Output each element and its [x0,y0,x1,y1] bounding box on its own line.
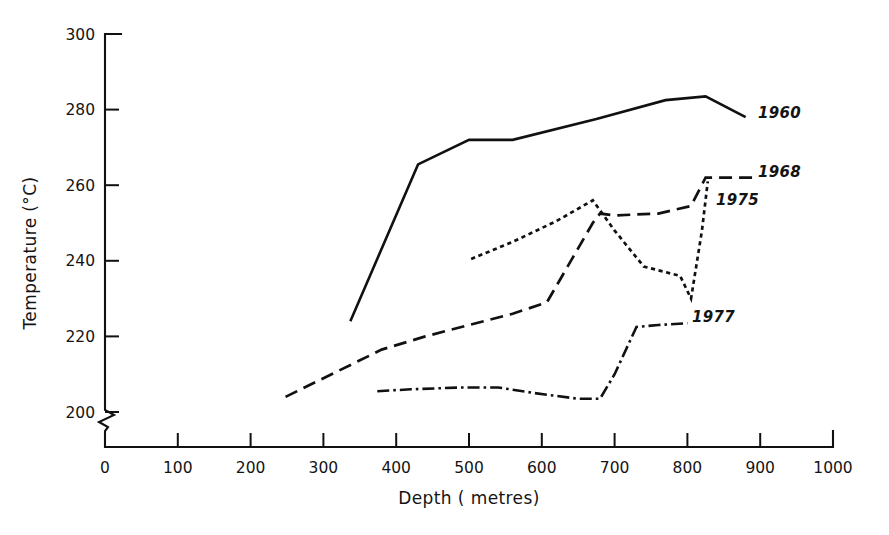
x-tick-label: 0 [100,459,110,477]
y-axis-line [105,34,121,404]
x-tick-label: 500 [454,459,484,477]
y-axis-title: Temperature (°C) [20,176,40,330]
y-tick-label: 280 [65,101,95,119]
x-tick-label: 900 [745,459,775,477]
y-tick-label: 200 [65,404,95,422]
series-line-1960 [350,96,745,321]
x-tick-label: 400 [381,459,411,477]
series-label-group: 1960196819751977 [692,104,801,326]
x-tick-label: 300 [309,459,339,477]
series-line-1968 [286,178,753,397]
y-tick-group [105,34,119,412]
series-line-1977 [377,323,687,399]
x-axis-title: Depth ( metres) [398,488,539,508]
y-tick-label: 220 [65,328,95,346]
series-label-1975: 1975 [716,191,759,209]
chart-figure: 200220240260280300 Temperature (°C) 0100… [0,0,889,535]
series-line-1975 [471,181,708,298]
x-tick-label-group: 01002003004005006007008009001000 [100,459,853,477]
x-tick-label: 800 [673,459,703,477]
x-tick-label: 200 [236,459,266,477]
chart-canvas: 200220240260280300 Temperature (°C) 0100… [0,0,889,535]
y-tick-label: 260 [65,177,95,195]
series-path-group [286,96,753,398]
y-axis: 200220240260280300 Temperature (°C) [20,26,121,448]
y-tick-label: 300 [65,26,95,44]
series-label-1968: 1968 [758,163,801,181]
y-tick-label: 240 [65,252,95,270]
x-axis: 01002003004005006007008009001000 Depth (… [100,431,853,508]
x-tick-label: 600 [527,459,557,477]
y-tick-label-group: 200220240260280300 [65,26,95,422]
series-label-1977: 1977 [692,308,735,326]
x-tick-label: 1000 [813,459,852,477]
y-axis-break-icon [99,404,114,447]
x-tick-label: 100 [163,459,193,477]
x-tick-group [178,433,760,447]
series-label-1960: 1960 [758,104,801,122]
x-tick-label: 700 [600,459,630,477]
